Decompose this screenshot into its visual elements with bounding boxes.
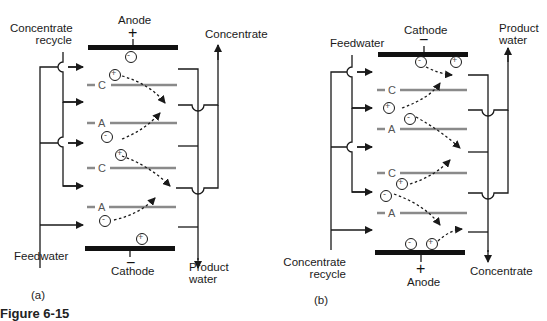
ion-sign: + bbox=[428, 237, 433, 247]
panel-b bbox=[331, 46, 508, 262]
ion-sign: + bbox=[111, 68, 116, 78]
concentrate-recycle-label-b: recycle bbox=[280, 268, 346, 280]
membrane-label: A bbox=[98, 117, 105, 129]
anode-plate bbox=[88, 45, 178, 50]
plus-sign-b: + bbox=[416, 262, 425, 276]
membrane-label: C bbox=[98, 79, 106, 91]
anode-label-b: Anode bbox=[407, 276, 440, 288]
figure-caption: Figure 6-15 bbox=[0, 306, 69, 321]
anode-plate-b bbox=[375, 250, 465, 255]
concentrate-recycle-label: recycle bbox=[10, 34, 72, 46]
product-water-label-b: water bbox=[499, 34, 527, 46]
ion-sign: + bbox=[138, 232, 143, 242]
feedwater-label-b: Feedwater bbox=[330, 37, 384, 49]
product-water-label: water bbox=[189, 273, 217, 285]
ion-sign: + bbox=[385, 101, 390, 111]
ion-sign: + bbox=[117, 148, 122, 158]
ion-sign: - bbox=[102, 214, 105, 224]
ion-sign: - bbox=[383, 189, 386, 199]
ion-sign: + bbox=[452, 55, 457, 65]
ion-sign: - bbox=[408, 237, 411, 247]
panel-label-a: (a) bbox=[31, 289, 45, 301]
membrane-label: C bbox=[388, 167, 396, 179]
panel-a bbox=[40, 39, 218, 268]
product-water-label-b: Product bbox=[499, 22, 539, 34]
panel-label-b: (b) bbox=[314, 294, 328, 306]
membrane-label: A bbox=[388, 207, 395, 219]
membrane-label: C bbox=[98, 162, 106, 174]
concentrate-out-label: Concentrate bbox=[205, 28, 268, 40]
feedwater-label: Feedwater bbox=[14, 250, 68, 262]
ion-sign: + bbox=[398, 177, 403, 187]
concentrate-recycle-label-b: Concentrate bbox=[280, 256, 346, 268]
ion-sign: - bbox=[127, 50, 130, 60]
membrane-label: A bbox=[98, 201, 105, 213]
ion-sign: - bbox=[418, 55, 421, 65]
concentrate-out-label-b: Concentrate bbox=[470, 265, 533, 277]
cathode-label: Cathode bbox=[111, 265, 154, 277]
concentrate-recycle-label: Concentrate bbox=[10, 22, 72, 34]
ion-sign: - bbox=[104, 130, 107, 140]
membrane-label: A bbox=[388, 123, 395, 135]
plus-sign: + bbox=[128, 26, 137, 40]
ion-sign: - bbox=[407, 112, 410, 122]
membrane-label: C bbox=[388, 84, 396, 96]
minus-sign-b: − bbox=[419, 33, 428, 47]
cathode-plate bbox=[85, 246, 175, 251]
product-water-label: Product bbox=[189, 261, 229, 273]
